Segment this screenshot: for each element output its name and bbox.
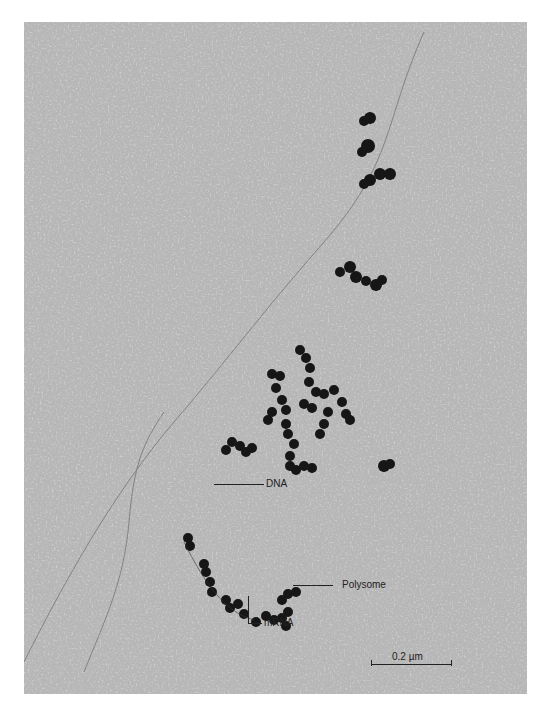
mrna-leader-vertical <box>248 596 249 623</box>
dna-leader-line <box>214 484 264 485</box>
mrna-leader-horizontal <box>248 623 262 624</box>
scale-bar <box>371 664 451 665</box>
mrna-label: mRNA <box>264 618 293 628</box>
micrograph-image <box>24 22 527 694</box>
scale-bar-left-tick <box>371 660 372 666</box>
dna-label: DNA <box>266 479 287 489</box>
polysome-leader-line <box>293 585 333 586</box>
scale-bar-label: 0.2 µm <box>392 652 423 662</box>
polysome-label: Polysome <box>342 580 386 590</box>
scale-bar-right-tick <box>451 660 452 666</box>
